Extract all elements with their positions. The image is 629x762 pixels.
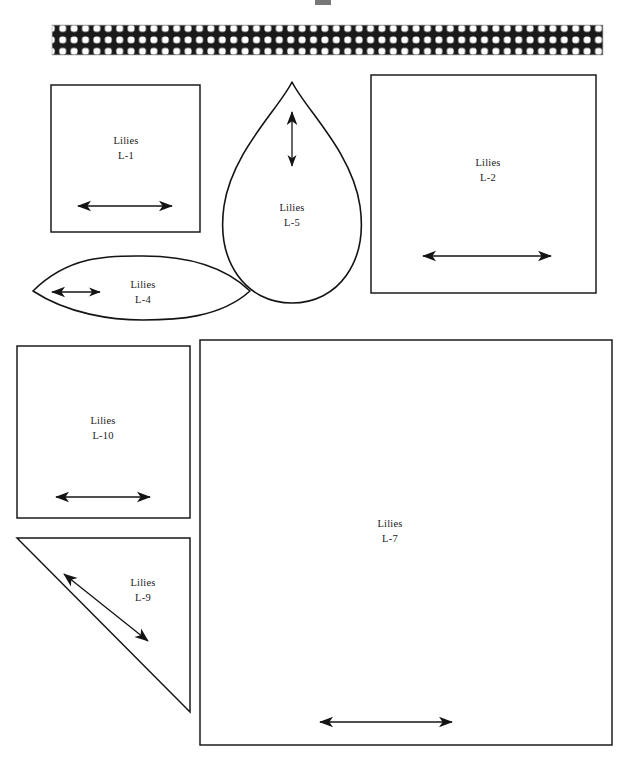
- pattern-piece-l-10: Lilies L-10: [17, 346, 190, 518]
- piece-label-code-l-2: L-2: [480, 172, 496, 183]
- piece-label-name-l-2: Lilies: [475, 157, 500, 168]
- piece-label-name-l-5: Lilies: [279, 202, 304, 213]
- pattern-piece-l-5: Lilies L-5: [223, 82, 362, 303]
- piece-outline-l-7: [200, 340, 612, 745]
- pattern-piece-l-2: Lilies L-2: [371, 75, 596, 293]
- piece-label-code-l-5: L-5: [284, 217, 300, 228]
- pattern-piece-l-9: Lilies L-9: [17, 538, 190, 712]
- pattern-sheet-page: Lilies L-1 Lilies L-2 Lilies L-5 Lilies …: [0, 0, 629, 762]
- piece-outline-l-2: [371, 75, 596, 293]
- pattern-piece-l-1: Lilies L-1: [51, 85, 200, 232]
- piece-label-name-l-4: Lilies: [130, 279, 155, 290]
- piece-label-code-l-4: L-4: [135, 294, 151, 305]
- piece-outline-l-9: [17, 538, 190, 712]
- piece-label-code-l-9: L-9: [135, 592, 151, 603]
- piece-label-name-l-9: Lilies: [130, 577, 155, 588]
- piece-label-code-l-7: L-7: [382, 533, 398, 544]
- piece-label-name-l-10: Lilies: [90, 415, 115, 426]
- pattern-piece-l-4: Lilies L-4: [33, 256, 250, 320]
- piece-label-name-l-7: Lilies: [377, 518, 402, 529]
- piece-label-code-l-10: L-10: [92, 430, 113, 441]
- cropped-mark: [315, 0, 331, 5]
- piece-label-name-l-1: Lilies: [113, 135, 138, 146]
- pattern-piece-l-7: Lilies L-7: [200, 340, 612, 745]
- piece-label-code-l-1: L-1: [118, 150, 134, 161]
- checkered-fabric-strip: [52, 25, 603, 55]
- pattern-sheet-canvas: Lilies L-1 Lilies L-2 Lilies L-5 Lilies …: [0, 0, 629, 762]
